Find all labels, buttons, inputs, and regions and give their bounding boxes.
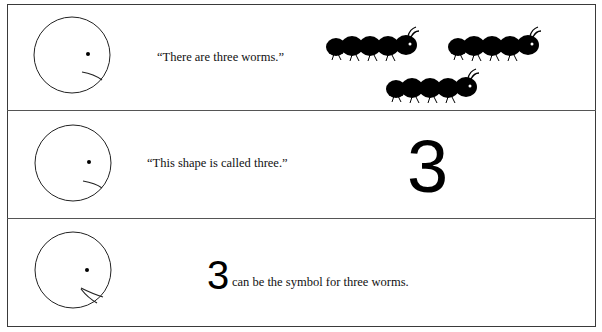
worm-icon-1 bbox=[326, 27, 419, 61]
numeral-three-large: 3 bbox=[407, 130, 448, 204]
numeral-three-inline: 3 bbox=[207, 255, 229, 295]
face-icon-3 bbox=[35, 232, 111, 308]
face-icon-2 bbox=[35, 125, 111, 201]
caption-panel-2: “This shape is called three.” bbox=[147, 156, 288, 171]
caption-panel-3: can be the symbol for three worms. bbox=[232, 275, 409, 290]
worm-icon-2 bbox=[448, 27, 541, 61]
face-icon-1 bbox=[34, 17, 110, 93]
caption-panel-1: “There are three worms.” bbox=[157, 50, 284, 65]
worm-icon-3 bbox=[386, 69, 479, 103]
